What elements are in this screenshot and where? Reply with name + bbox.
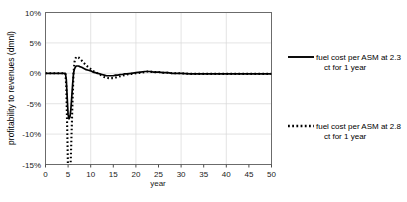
x-tick-label: 5 xyxy=(66,170,71,179)
x-tick-label: 15 xyxy=(109,170,118,179)
legend-label-2-line-1: fuel cost per ASM at 2.8 xyxy=(316,122,401,131)
y-axis-title: profitability to revenues (dmnl) xyxy=(6,31,16,145)
legend-label-2-line-2: ct for 1 year xyxy=(324,132,367,141)
x-tick-label: 40 xyxy=(222,170,231,179)
y-axis-tick-labels: 10%5%0%-5%-10%-15% xyxy=(22,9,41,170)
x-tick-label: 50 xyxy=(267,170,276,179)
x-tick-label: 10 xyxy=(86,170,95,179)
x-tick-label: 25 xyxy=(154,170,163,179)
y-tick-label: -15% xyxy=(22,161,41,170)
series-line-1 xyxy=(46,66,272,119)
x-tick-label: 20 xyxy=(131,170,140,179)
legend-label-1-line-2: ct for 1 year xyxy=(324,63,367,72)
legend-label-1-line-1: fuel cost per ASM at 2.3 xyxy=(316,53,401,62)
gridlines xyxy=(46,13,272,165)
y-tick-label: 5% xyxy=(29,39,41,48)
legend: fuel cost per ASM at 2.3 ct for 1 year f… xyxy=(288,53,401,141)
y-tick-label: -5% xyxy=(27,100,41,109)
x-tick-label: 35 xyxy=(199,170,208,179)
x-tick-label: 0 xyxy=(43,170,48,179)
x-tick-label: 30 xyxy=(177,170,186,179)
y-tick-label: -10% xyxy=(22,130,41,139)
chart-canvas: 10%5%0%-5%-10%-15% 05101520253035404550 … xyxy=(0,0,407,202)
x-axis-tick-labels: 05101520253035404550 xyxy=(43,170,276,179)
x-axis-title: year xyxy=(150,179,166,188)
x-tick-label: 45 xyxy=(244,170,253,179)
plot-frame xyxy=(46,13,272,165)
y-tick-label: 0% xyxy=(29,69,41,78)
chart-figure: 10%5%0%-5%-10%-15% 05101520253035404550 … xyxy=(0,0,407,202)
y-tick-label: 10% xyxy=(25,9,41,18)
